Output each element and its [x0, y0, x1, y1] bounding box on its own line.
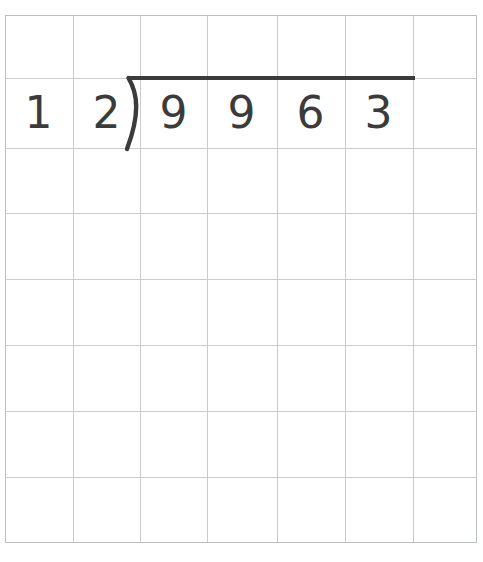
grid-horizontal-lines [5, 16, 477, 543]
long-division-worksheet: 1 2 9 9 6 3 [0, 0, 483, 562]
worksheet-grid [5, 15, 477, 543]
grid-lines-svg [5, 15, 477, 543]
